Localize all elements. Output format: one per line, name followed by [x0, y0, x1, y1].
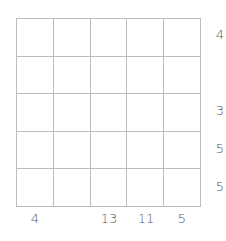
grid-cell[interactable] — [54, 57, 91, 95]
grid-cell[interactable] — [54, 94, 91, 132]
grid-cell[interactable] — [91, 169, 128, 207]
grid-cell[interactable] — [91, 132, 128, 170]
grid-cell[interactable] — [127, 57, 164, 95]
right-clue-row-5: 5 — [210, 179, 226, 194]
right-clue-row-1: 4 — [210, 27, 226, 42]
grid-cell[interactable] — [54, 169, 91, 207]
grid-cell[interactable] — [164, 57, 201, 95]
grid-cell[interactable] — [127, 132, 164, 170]
grid-cell[interactable] — [54, 19, 91, 57]
grid-cell[interactable] — [17, 57, 54, 95]
grid-cell[interactable] — [17, 169, 54, 207]
grid-cell[interactable] — [164, 169, 201, 207]
grid-cell[interactable] — [54, 132, 91, 170]
right-clue-row-3: 3 — [210, 103, 226, 118]
grid-cell[interactable] — [91, 57, 128, 95]
grid-cell[interactable] — [164, 94, 201, 132]
bottom-clue-col-5: 5 — [172, 211, 192, 226]
grid-cell[interactable] — [127, 94, 164, 132]
grid-cell[interactable] — [17, 19, 54, 57]
bottom-clue-col-3: 13 — [99, 211, 119, 226]
grid-cell[interactable] — [91, 19, 128, 57]
bottom-clue-col-4: 11 — [136, 211, 156, 226]
bottom-clue-col-1: 4 — [25, 211, 45, 226]
grid-cell[interactable] — [17, 94, 54, 132]
grid-cell[interactable] — [127, 19, 164, 57]
puzzle-grid — [16, 18, 201, 207]
grid-cell[interactable] — [17, 132, 54, 170]
grid-cell[interactable] — [127, 169, 164, 207]
grid-cell[interactable] — [164, 19, 201, 57]
right-clue-row-4: 5 — [210, 141, 226, 156]
grid-cell[interactable] — [91, 94, 128, 132]
grid-cell[interactable] — [164, 132, 201, 170]
